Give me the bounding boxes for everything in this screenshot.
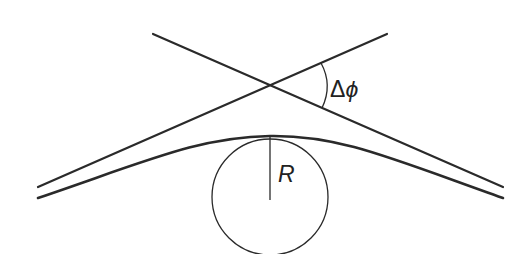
radius-label: R (278, 163, 295, 186)
asymptote-line-ascending (38, 34, 387, 187)
diagram-svg (0, 0, 525, 254)
angle-label: Δϕ (330, 78, 358, 101)
delta-symbol: Δ (330, 76, 345, 102)
phi-symbol: ϕ (345, 76, 358, 102)
asymptote-line-descending (153, 34, 503, 187)
deflection-diagram: Δϕ R (0, 0, 525, 254)
angle-arc (321, 63, 327, 108)
